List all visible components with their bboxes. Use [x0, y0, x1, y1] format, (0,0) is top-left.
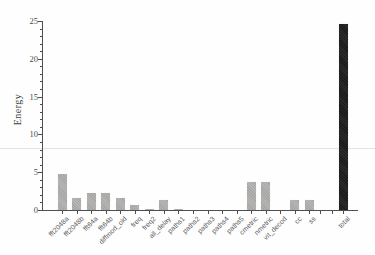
- x-tick: [251, 211, 252, 214]
- x-category-label: total: [337, 215, 351, 229]
- bar-nmetric: [261, 182, 270, 210]
- energy-bar-chart: Energy 0510152025fft2048afft2048bfft64af…: [0, 0, 375, 255]
- x-tick-unlabeled: [320, 211, 321, 214]
- x-category-label: fft64a: [82, 215, 99, 232]
- y-tick-label: 25: [18, 16, 38, 26]
- bar-cmetric: [247, 182, 256, 210]
- x-tick: [280, 211, 281, 214]
- x-tick: [295, 211, 296, 214]
- x-tick: [343, 211, 344, 214]
- x-tick: [62, 211, 63, 214]
- bar-fft64b: [101, 193, 110, 210]
- x-tick: [222, 211, 223, 214]
- y-minor-tick: [40, 66, 42, 67]
- bar-fft64a: [87, 193, 96, 210]
- y-major-tick: [38, 97, 42, 98]
- y-minor-tick: [40, 29, 42, 30]
- y-major-tick: [38, 210, 42, 211]
- x-tick: [106, 211, 107, 214]
- x-tick: [149, 211, 150, 214]
- scan-artifact-line: [0, 148, 375, 149]
- bar-diffmod_old: [116, 198, 125, 210]
- y-minor-tick: [40, 44, 42, 45]
- bar-cc: [290, 200, 299, 210]
- bar-ss: [305, 200, 314, 210]
- x-tick: [77, 211, 78, 214]
- y-minor-tick: [40, 150, 42, 151]
- y-tick-label: 10: [18, 129, 38, 139]
- y-minor-tick: [40, 187, 42, 188]
- bar-total: [339, 24, 348, 210]
- y-axis-line: [42, 21, 43, 211]
- y-major-tick: [38, 134, 42, 135]
- x-tick: [120, 211, 121, 214]
- y-minor-tick: [40, 104, 42, 105]
- bar-all_delay: [159, 200, 168, 210]
- y-major-tick: [38, 21, 42, 22]
- y-minor-tick: [40, 165, 42, 166]
- y-minor-tick: [40, 51, 42, 52]
- bar-fft2048a: [58, 174, 67, 210]
- x-tick: [135, 211, 136, 214]
- x-tick-unlabeled: [332, 211, 333, 214]
- y-minor-tick: [40, 157, 42, 158]
- y-minor-tick: [40, 81, 42, 82]
- y-minor-tick: [40, 89, 42, 90]
- y-minor-tick: [40, 180, 42, 181]
- bar-fft2048b: [72, 198, 81, 210]
- x-tick: [266, 211, 267, 214]
- x-tick: [178, 211, 179, 214]
- y-minor-tick: [40, 142, 42, 143]
- y-minor-tick: [40, 112, 42, 113]
- y-minor-tick: [40, 74, 42, 75]
- y-minor-tick: [40, 127, 42, 128]
- x-tick: [91, 211, 92, 214]
- y-minor-tick: [40, 36, 42, 37]
- x-tick: [237, 211, 238, 214]
- y-minor-tick: [40, 119, 42, 120]
- x-category-label: ss: [307, 215, 317, 225]
- y-minor-tick: [40, 202, 42, 203]
- y-major-tick: [38, 172, 42, 173]
- x-tick: [208, 211, 209, 214]
- x-axis-line: [42, 210, 358, 211]
- x-tick: [309, 211, 310, 214]
- y-major-tick: [38, 59, 42, 60]
- x-tick: [193, 211, 194, 214]
- x-tick: [164, 211, 165, 214]
- y-tick-label: 5: [18, 167, 38, 177]
- y-tick-label: 15: [18, 92, 38, 102]
- x-category-label: cc: [293, 215, 303, 225]
- y-tick-label: 0: [18, 205, 38, 215]
- y-tick-label: 20: [18, 54, 38, 64]
- y-minor-tick: [40, 195, 42, 196]
